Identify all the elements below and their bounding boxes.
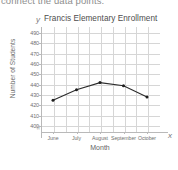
instruction-text: connect the data points. [0,0,178,6]
y-tick-mark [39,54,41,55]
x-tick-mark [77,132,78,134]
y-tick-mark [39,105,41,106]
chart-figure: y Francis Elementary Enrollment x Number… [0,11,178,170]
x-axis-letter: x [168,131,172,140]
y-tick-label: 430 [23,92,39,98]
y-tick-mark [39,74,41,75]
y-tick-label: 470 [23,51,39,57]
x-tick-mark [147,132,148,134]
y-tick-mark [39,85,41,86]
series-polyline [53,83,147,101]
chart-title: Francis Elementary Enrollment [44,14,157,23]
y-tick-label: 450 [23,71,39,77]
data-point-marker[interactable] [146,96,149,99]
y-tick-mark [39,64,41,65]
y-tick-label: 440 [23,82,39,88]
data-point-marker[interactable] [99,81,102,84]
y-tick-label: 410 [23,113,39,119]
x-tick-mark [100,132,101,134]
y-tick-label: 420 [23,102,39,108]
x-axis-line [41,132,168,133]
y-tick-mark [39,33,41,34]
x-axis-title: Month [41,144,159,151]
x-tick-mark [124,132,125,134]
data-point-marker[interactable] [75,88,78,91]
y-axis-title: Number of Students [9,33,16,105]
data-series-line [41,27,159,132]
instruction-strip: connect the data points. [0,0,178,6]
y-tick-label: 480 [23,40,39,46]
y-tick-mark [39,95,41,96]
y-tick-mark [39,43,41,44]
data-point-marker[interactable] [122,84,125,87]
y-tick-mark [39,126,41,127]
x-tick-mark [53,132,54,134]
y-tick-label: 460 [23,61,39,67]
y-tick-label: 490 [23,30,39,36]
x-tick-label: October [131,135,163,141]
data-point-marker[interactable] [52,99,55,102]
y-tick-mark [39,116,41,117]
y-tick-label-group: 490480470460450440430420410400 [20,11,39,141]
